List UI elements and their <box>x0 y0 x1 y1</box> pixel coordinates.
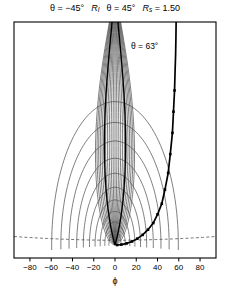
curve-marker <box>172 110 175 113</box>
curve-marker <box>167 172 170 175</box>
curve-marker <box>136 237 139 240</box>
curve-marker <box>125 242 128 245</box>
curve-marker <box>147 228 150 231</box>
curve-marker <box>169 153 172 156</box>
curve-marker <box>160 202 163 205</box>
curve-marker <box>141 234 144 237</box>
curve-marker <box>173 89 176 92</box>
curve-marker <box>152 222 155 225</box>
curve-marker <box>164 188 167 191</box>
x-axis-label: ϕ <box>0 276 230 286</box>
curve-marker <box>171 132 174 135</box>
curve-marker <box>156 213 159 216</box>
curve-marker <box>131 240 134 243</box>
grid-group <box>14 0 216 250</box>
x-tick-label: 80 <box>187 263 213 272</box>
curve-marker <box>116 244 119 247</box>
curve-marker <box>120 243 123 246</box>
theta-63-annotation: θ = 63° <box>131 41 158 51</box>
plot-canvas <box>0 0 230 295</box>
